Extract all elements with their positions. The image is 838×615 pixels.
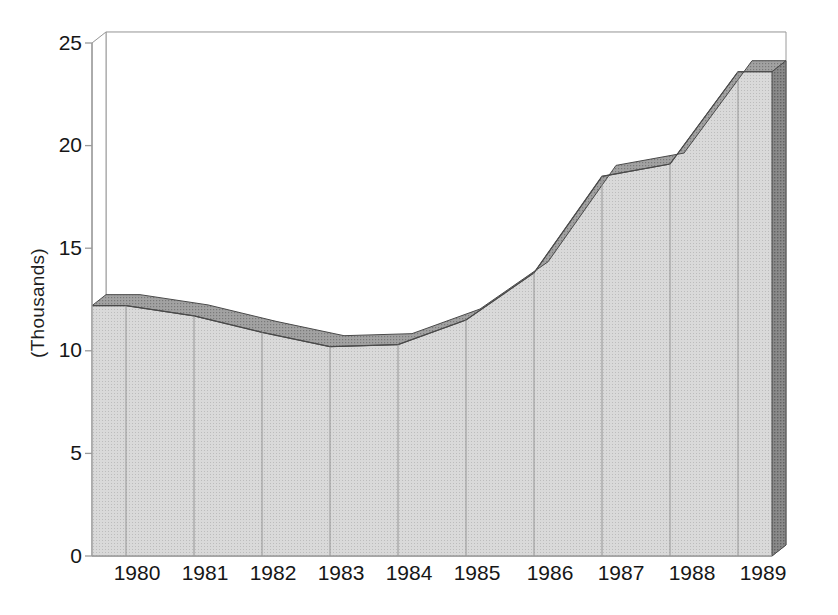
plot-area-svg — [0, 0, 838, 615]
chart-3d-area: (Thousands) 25 20 15 10 5 0 1980 1981 19… — [0, 0, 838, 615]
